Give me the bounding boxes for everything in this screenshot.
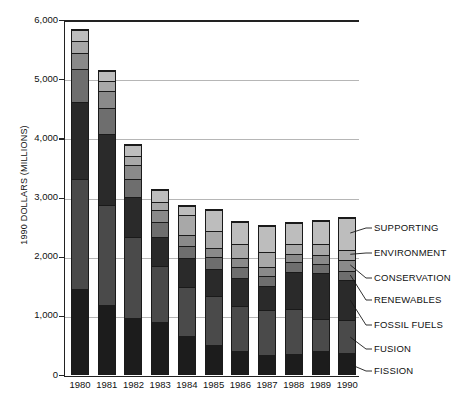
legend-label-fission: FISSION xyxy=(374,365,413,376)
legend-leader-line xyxy=(350,228,372,233)
legend-label-conservation: CONSERVATION xyxy=(374,272,451,283)
legend-leader-line xyxy=(350,253,372,254)
legend: SUPPORTINGENVIRONMENTCONSERVATIONRENEWAB… xyxy=(0,0,454,404)
legend-label-supporting: SUPPORTING xyxy=(374,222,439,233)
legend-label-environment: ENVIRONMENT xyxy=(374,247,446,258)
legend-label-fusion: FUSION xyxy=(374,343,411,354)
legend-leader-line xyxy=(350,265,372,278)
stacked-bar-chart: 1990 DOLLARS (MILLIONS) 01,0002,0003,000… xyxy=(0,0,454,404)
legend-label-renewables: RENEWABLES xyxy=(374,294,442,305)
legend-leader-line xyxy=(350,300,372,325)
legend-label-fossil-fuels: FOSSIL FUELS xyxy=(374,319,443,330)
legend-leader-line xyxy=(350,275,372,300)
legend-leader-line xyxy=(350,364,372,371)
legend-leader-line xyxy=(350,337,372,349)
